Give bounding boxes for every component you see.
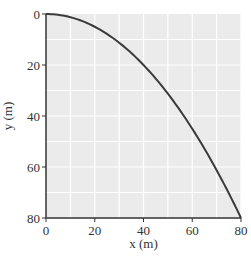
x-axis-ticks: 020406080 bbox=[43, 218, 248, 238]
y-axis-ticks: 020406080 bbox=[27, 7, 46, 226]
y-axis-label: y (m) bbox=[0, 102, 15, 131]
trajectory-chart: 020406080 020406080 x (m) y (m) bbox=[0, 0, 251, 256]
x-tick-label: 80 bbox=[235, 223, 248, 238]
x-tick-label: 20 bbox=[88, 223, 101, 238]
y-tick-label: 80 bbox=[27, 211, 40, 226]
x-tick-label: 60 bbox=[186, 223, 199, 238]
y-tick-label: 40 bbox=[27, 109, 40, 124]
y-tick-label: 20 bbox=[27, 58, 40, 73]
x-axis-label: x (m) bbox=[129, 236, 158, 251]
y-tick-label: 0 bbox=[34, 7, 41, 22]
x-tick-label: 0 bbox=[43, 223, 50, 238]
y-tick-label: 60 bbox=[27, 160, 40, 175]
